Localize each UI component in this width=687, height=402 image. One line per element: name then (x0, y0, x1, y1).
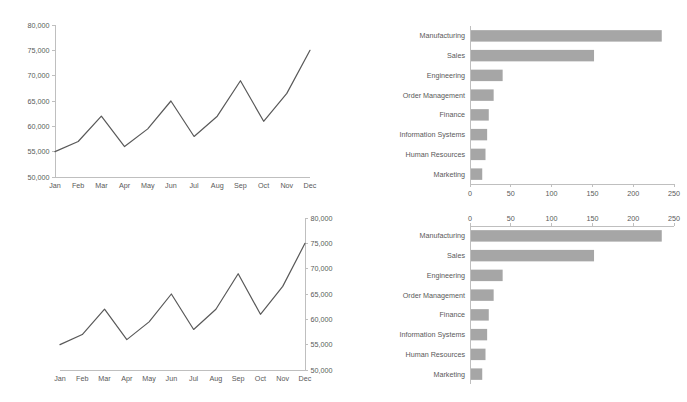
x-tick-label: Feb (76, 374, 88, 383)
bar-category-label: Order Management (403, 291, 465, 300)
y-tick-label: 80,000 (311, 214, 333, 223)
bar-category-label: Engineering (427, 271, 465, 280)
bar-category-label: Human Resources (405, 350, 465, 359)
bar-category-label: Marketing (433, 170, 465, 179)
x-tick-label: Nov (280, 181, 293, 190)
bar (470, 349, 486, 360)
bar-category-label: Finance (439, 310, 465, 319)
x-tick-label: Aug (210, 374, 223, 383)
x-tick-label: 250 (668, 214, 680, 223)
category-labels-top-right: ManufacturingSalesEngineeringOrder Manag… (399, 31, 465, 178)
y-axis-top-left: 50,00055,00060,00065,00070,00075,00080,0… (28, 21, 55, 182)
bar (470, 129, 487, 140)
x-tick-label: Jan (49, 181, 61, 190)
bar-category-label: Human Resources (405, 150, 465, 159)
x-tick-label: Nov (276, 374, 289, 383)
x-tick-label: 200 (627, 189, 639, 198)
y-tick-label: 80,000 (28, 21, 50, 30)
category-labels-bottom-right: ManufacturingSalesEngineeringOrder Manag… (399, 231, 465, 378)
x-tick-label: Jun (165, 181, 177, 190)
bar (470, 30, 662, 41)
y-tick-label: 60,000 (311, 315, 333, 324)
x-tick-label: Dec (304, 181, 317, 190)
bar-category-label: Manufacturing (419, 31, 465, 40)
x-tick-label: Mar (98, 374, 111, 383)
y-tick-label: 70,000 (28, 71, 50, 80)
x-tick-label: 0 (468, 189, 472, 198)
y-tick-label: 75,000 (311, 239, 333, 248)
bar-category-label: Sales (447, 51, 465, 60)
x-tick-label: 50 (507, 214, 515, 223)
x-tick-label: Jan (54, 374, 66, 383)
x-tick-label: Apr (119, 181, 131, 190)
chart-panel-line-bottom-left: 50,00055,00060,00065,00070,00075,00080,0… (0, 200, 344, 402)
chart-panel-bar-top-right: ManufacturingSalesEngineeringOrder Manag… (344, 0, 687, 200)
bar (470, 149, 486, 160)
bar-category-label: Information Systems (399, 330, 465, 339)
bar-category-label: Order Management (403, 91, 465, 100)
line-chart-top-left-svg: 50,00055,00060,00065,00070,00075,00080,0… (0, 0, 344, 200)
bar (470, 168, 482, 179)
x-tick-label: 250 (668, 189, 680, 198)
x-tick-label: 150 (586, 189, 598, 198)
x-tick-label: Jul (189, 374, 199, 383)
x-tick-label: Aug (211, 181, 224, 190)
x-tick-label: Feb (72, 181, 84, 190)
bar (470, 250, 594, 261)
y-tick-label: 55,000 (311, 340, 333, 349)
bar-category-label: Manufacturing (419, 231, 465, 240)
bar-category-label: Engineering (427, 71, 465, 80)
y-tick-label: 50,000 (28, 173, 50, 182)
x-tick-label: 100 (546, 214, 558, 223)
x-axis-top-left: JanFebMarAprMayJunJulAugSepOctNovDec (49, 177, 317, 190)
y-axis-bottom-left: 50,00055,00060,00065,00070,00075,00080,0… (305, 214, 332, 375)
x-tick-label: 50 (507, 189, 515, 198)
bar (470, 89, 494, 100)
bar (470, 50, 594, 61)
x-tick-label: Jun (166, 374, 178, 383)
x-tick-label: Sep (232, 374, 245, 383)
bar-group-bottom-right (470, 230, 662, 380)
y-tick-label: 70,000 (311, 264, 333, 273)
chart-panel-bar-bottom-right: ManufacturingSalesEngineeringOrder Manag… (344, 200, 687, 402)
bar (470, 109, 489, 120)
x-axis-bottom-left: JanFebMarAprMayJunJulAugSepOctNovDec (54, 370, 312, 383)
x-tick-label: Oct (255, 374, 266, 383)
bar-chart-top-right-svg: ManufacturingSalesEngineeringOrder Manag… (344, 0, 687, 200)
bar-category-label: Information Systems (399, 130, 465, 139)
x-tick-label: 150 (586, 214, 598, 223)
bar (470, 270, 503, 281)
x-tick-label: May (141, 181, 155, 190)
line-series-path (60, 243, 305, 344)
x-axis-top-right: 050100150200250 (468, 184, 680, 198)
bar (470, 309, 489, 320)
x-tick-label: Jul (189, 181, 199, 190)
x-tick-label: Oct (258, 181, 269, 190)
x-tick-label: 200 (627, 214, 639, 223)
y-tick-label: 65,000 (311, 290, 333, 299)
chart-panel-line-top-left: 50,00055,00060,00065,00070,00075,00080,0… (0, 0, 344, 200)
line-chart-bottom-left-svg: 50,00055,00060,00065,00070,00075,00080,0… (0, 200, 344, 402)
bar-chart-bottom-right-svg: ManufacturingSalesEngineeringOrder Manag… (344, 200, 687, 402)
x-tick-label: Apr (121, 374, 133, 383)
bar-category-label: Sales (447, 251, 465, 260)
y-tick-label: 60,000 (28, 122, 50, 131)
x-tick-label: Sep (234, 181, 247, 190)
bar-group-top-right (470, 30, 662, 180)
bar (470, 289, 494, 300)
x-tick-label: Dec (299, 374, 312, 383)
bar (470, 368, 482, 379)
bar (470, 230, 662, 241)
bar-category-label: Marketing (433, 370, 465, 379)
y-tick-label: 75,000 (28, 46, 50, 55)
line-series-path (55, 50, 310, 151)
x-tick-label: May (142, 374, 156, 383)
bar (470, 329, 487, 340)
x-tick-label: Mar (95, 181, 108, 190)
x-tick-label: 100 (546, 189, 558, 198)
y-tick-label: 65,000 (28, 97, 50, 106)
x-tick-label: 0 (468, 214, 472, 223)
bar-category-label: Finance (439, 110, 465, 119)
bar (470, 70, 503, 81)
x-axis-bottom-right: 050100150200250 (468, 214, 680, 227)
